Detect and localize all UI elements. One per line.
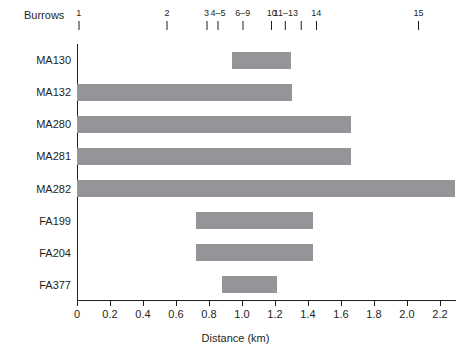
x-axis-tick-mark [77, 301, 78, 306]
burrow-tick-mark-extra [300, 8, 303, 30]
x-axis-tick-label: 1.8 [366, 308, 381, 320]
bar-ma280 [77, 116, 351, 133]
x-axis-tick-mark [275, 301, 276, 306]
burrow-tick-mark [418, 21, 419, 30]
bar-ma130 [232, 52, 291, 69]
y-axis-label-ma282: MA282 [36, 183, 71, 195]
y-axis-label-ma281: MA281 [36, 150, 71, 162]
burrow-tick-mark [242, 21, 243, 30]
x-axis-tick-mark [209, 301, 210, 306]
burrow-tick-4-5: 4–5 [211, 8, 226, 30]
burrow-tick-label: 1 [76, 8, 81, 18]
burrow-tick-mark [206, 21, 207, 30]
y-axis-label-fa199: FA199 [39, 215, 71, 227]
x-axis-title: Distance (km) [0, 332, 471, 344]
burrow-tick-label: 6–9 [235, 8, 250, 18]
y-axis-label-ma130: MA130 [36, 54, 71, 66]
bar-fa199 [196, 212, 313, 229]
bar-ma132 [77, 84, 292, 101]
x-axis-tick-label: 0.6 [168, 308, 183, 320]
x-axis-tick-label: 1.2 [267, 308, 282, 320]
x-axis-tick-label: 1.0 [234, 308, 249, 320]
x-axis-tick-mark [407, 301, 408, 306]
burrows-axis-title: Burrows [24, 9, 64, 21]
x-axis-tick-mark [242, 301, 243, 306]
x-axis-tick-label: 0.2 [102, 308, 117, 320]
x-axis-tick-label: 1.6 [333, 308, 348, 320]
burrow-tick-11-13: 11–13 [274, 8, 298, 30]
burrow-tick-label: 15 [414, 8, 424, 18]
x-axis-tick-label: 1.4 [300, 308, 315, 320]
x-axis-tick-label: 0.8 [201, 308, 216, 320]
burrow-tick-mark [78, 21, 79, 30]
burrow-tick-15: 15 [414, 8, 424, 30]
x-axis-tick-label: 2.2 [432, 308, 447, 320]
x-axis-tick-mark [341, 301, 342, 306]
burrow-tick-mark [301, 21, 302, 30]
burrow-tick-label: 3 [204, 8, 209, 18]
burrow-tick-mark [285, 21, 286, 30]
bar-ma281 [77, 148, 351, 165]
chart-figure: Burrows 1234–56–91011–131415 Animals MA1… [0, 0, 471, 358]
x-axis-tick-mark [308, 301, 309, 306]
x-axis-tick-label: 0.4 [135, 308, 150, 320]
y-axis-label-ma132: MA132 [36, 86, 71, 98]
burrow-tick-14: 14 [311, 8, 321, 30]
burrow-tick-mark [316, 21, 317, 30]
burrow-tick-label: 4–5 [211, 8, 226, 18]
x-axis-tick-mark [374, 301, 375, 306]
x-axis-tick-mark [143, 301, 144, 306]
y-axis-label-fa377: FA377 [39, 279, 71, 291]
burrow-tick-2: 2 [164, 8, 169, 30]
bar-ma282 [77, 180, 455, 197]
burrow-tick-mark [271, 21, 272, 30]
x-axis-tick-mark [440, 301, 441, 306]
x-axis-tick-mark [110, 301, 111, 306]
x-axis-tick-mark [176, 301, 177, 306]
burrow-tick-label: 11–13 [274, 8, 298, 18]
bar-fa204 [196, 244, 313, 261]
burrow-tick-label [300, 8, 303, 18]
x-axis-tick-label: 0 [74, 308, 80, 320]
plot-area [77, 44, 456, 300]
burrow-tick-6-9: 6–9 [235, 8, 250, 30]
x-axis-line [77, 300, 456, 301]
burrow-tick-mark [166, 21, 167, 30]
burrow-tick-3: 3 [204, 8, 209, 30]
y-axis-labels: MA130MA132MA280MA281MA282FA199FA204FA377 [0, 44, 71, 301]
y-axis-label-ma280: MA280 [36, 118, 71, 130]
burrow-tick-label: 2 [164, 8, 169, 18]
bar-fa377 [222, 276, 276, 293]
burrow-tick-1: 1 [76, 8, 81, 30]
burrow-tick-mark [218, 21, 219, 30]
burrow-tick-label: 14 [311, 8, 321, 18]
y-axis-label-fa204: FA204 [39, 247, 71, 259]
x-axis-tick-label: 2.0 [399, 308, 414, 320]
